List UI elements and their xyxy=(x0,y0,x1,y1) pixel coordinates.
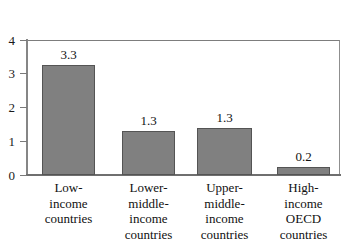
category-label-line: OECD xyxy=(261,211,346,227)
category-label-line: middle- xyxy=(106,196,191,212)
category-label-high-income-oecd-countries: High- income OECD countries xyxy=(261,180,346,242)
category-label-low-income-countries: Low- income countries xyxy=(26,180,111,227)
category-label-line: Upper- xyxy=(182,180,267,196)
bar-value-label-1: 1.3 xyxy=(122,114,175,127)
bar-high-income-oecd-countries[interactable] xyxy=(277,167,330,175)
category-label-line: Low- xyxy=(26,180,111,196)
category-label-line: income xyxy=(26,196,111,212)
category-label-line: income xyxy=(182,211,267,227)
y-tick-mark-4 xyxy=(20,40,27,41)
category-label-line: income xyxy=(106,211,191,227)
bar-lower-middle-income-countries[interactable] xyxy=(122,131,175,175)
y-tick-label-3: 3 xyxy=(0,67,15,80)
y-tick-label-1: 1 xyxy=(0,135,15,148)
category-label-line: middle- xyxy=(182,196,267,212)
y-tick-mark-2 xyxy=(20,107,27,108)
category-label-line: countries xyxy=(261,227,346,243)
y-tick-mark-0 xyxy=(20,175,27,176)
category-label-line: Lower- xyxy=(106,180,191,196)
category-label-line: High- xyxy=(261,180,346,196)
y-tick-label-2: 2 xyxy=(0,101,15,114)
y-tick-mark-1 xyxy=(20,141,27,142)
bar-upper-middle-income-countries[interactable] xyxy=(197,128,252,175)
category-label-line: countries xyxy=(106,227,191,243)
y-tick-mark-3 xyxy=(20,73,27,74)
bar-chart: 4 3 2 1 0 3.3 1.3 1.3 0.2 Low- income co… xyxy=(0,0,355,245)
category-label-upper-middle-income-countries: Upper- middle- income countries xyxy=(182,180,267,242)
bar-value-label-2: 1.3 xyxy=(197,111,252,124)
category-label-line: countries xyxy=(182,227,267,243)
category-label-lower-middle-income-countries: Lower- middle- income countries xyxy=(106,180,191,242)
bar-value-label-0: 3.3 xyxy=(42,48,95,61)
y-tick-label-4: 4 xyxy=(0,34,15,47)
y-tick-label-0: 0 xyxy=(0,169,15,182)
category-label-line: income xyxy=(261,196,346,212)
bar-low-income-countries[interactable] xyxy=(42,65,95,175)
category-label-line: countries xyxy=(26,211,111,227)
bar-value-label-3: 0.2 xyxy=(277,150,330,163)
